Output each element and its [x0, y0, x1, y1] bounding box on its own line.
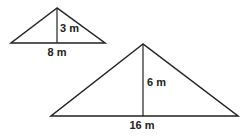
small-triangle: 3 m 8 m — [11, 8, 105, 58]
triangles-diagram: 3 m 8 m 6 m 16 m — [0, 0, 252, 140]
large-triangle-outline — [51, 44, 238, 116]
small-triangle-height-label: 3 m — [60, 22, 79, 34]
small-triangle-base-label: 8 m — [48, 46, 67, 58]
small-triangle-outline — [11, 8, 105, 43]
large-triangle-height-label: 6 m — [147, 76, 166, 88]
large-triangle: 6 m 16 m — [51, 44, 238, 131]
large-triangle-base-label: 16 m — [129, 119, 154, 131]
